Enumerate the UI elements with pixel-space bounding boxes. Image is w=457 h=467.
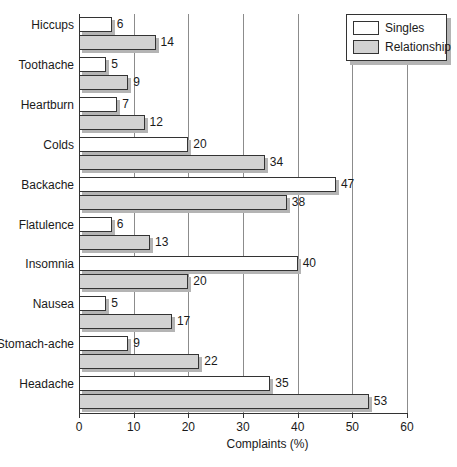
x-axis-title: Complaints (%) — [226, 437, 308, 451]
bar-relationship: 53 — [79, 394, 407, 409]
bar-singles: 47 — [79, 177, 407, 192]
bar-value-label: 53 — [374, 395, 387, 408]
category-label-stomach-ache: Stomach-ache — [0, 338, 74, 350]
bar-singles: 9 — [79, 336, 407, 351]
bar-rect — [79, 35, 156, 50]
bar-rect — [79, 314, 172, 329]
category-label-flatulence: Flatulence — [0, 219, 74, 231]
category-label-nausea: Nausea — [0, 298, 74, 310]
bar-relationship: 34 — [79, 155, 407, 170]
bar-rect — [79, 115, 145, 130]
bar-value-label: 9 — [133, 76, 140, 89]
gridline-60 — [407, 14, 408, 413]
y-axis-line — [79, 14, 80, 413]
bar-value-label: 9 — [133, 337, 140, 350]
bar-value-label: 14 — [161, 36, 174, 49]
bar-value-label: 12 — [150, 116, 163, 129]
bar-singles: 5 — [79, 296, 407, 311]
bar-value-label: 13 — [155, 236, 168, 249]
x-tick-label-0: 0 — [64, 420, 94, 434]
bar-value-label: 7 — [122, 98, 129, 111]
gridline-30 — [243, 14, 244, 413]
bar-value-label: 20 — [193, 275, 206, 288]
bar-rect — [79, 57, 106, 72]
x-tick-30 — [243, 413, 244, 418]
x-tick-label-40: 40 — [283, 420, 313, 434]
bar-chart: Singles Relationship 6145971220344738613… — [0, 0, 457, 467]
category-label-hiccups: Hiccups — [0, 19, 74, 31]
bar-value-label: 17 — [177, 315, 190, 328]
bar-rect — [79, 195, 287, 210]
category-label-backache: Backache — [0, 179, 74, 191]
bar-value-label: 22 — [204, 355, 217, 368]
x-tick-label-20: 20 — [173, 420, 203, 434]
x-axis-title-wrap: Complaints (%) — [0, 437, 457, 451]
category-label-headache: Headache — [0, 378, 74, 390]
bar-relationship: 20 — [79, 274, 407, 289]
gridline-20 — [188, 14, 189, 413]
bar-rect — [79, 354, 199, 369]
bar-value-label: 6 — [117, 18, 124, 31]
bar-relationship: 9 — [79, 75, 407, 90]
x-tick-label-50: 50 — [337, 420, 367, 434]
bar-rect — [79, 75, 128, 90]
bar-value-label: 6 — [117, 218, 124, 231]
bar-relationship: 22 — [79, 354, 407, 369]
x-tick-label-60: 60 — [392, 420, 422, 434]
category-label-heartburn: Heartburn — [0, 99, 74, 111]
legend-swatch-relationship — [353, 40, 379, 54]
bar-rect — [79, 97, 117, 112]
bar-value-label: 35 — [275, 377, 288, 390]
gridline-10 — [134, 14, 135, 413]
x-tick-10 — [134, 413, 135, 418]
bar-value-label: 38 — [292, 196, 305, 209]
bar-value-label: 20 — [193, 138, 206, 151]
bar-relationship: 13 — [79, 235, 407, 250]
category-label-insomnia: Insomnia — [0, 258, 74, 270]
bar-rect — [79, 274, 188, 289]
bar-rect — [79, 17, 112, 32]
bar-value-label: 40 — [303, 257, 316, 270]
bar-value-label: 5 — [111, 297, 118, 310]
bar-rect — [79, 256, 298, 271]
bar-singles: 40 — [79, 256, 407, 271]
plot-area: 614597122034473861340205179223553 — [79, 14, 407, 413]
bar-rect — [79, 394, 369, 409]
bar-singles: 35 — [79, 376, 407, 391]
gridline-40 — [298, 14, 299, 413]
bar-rect — [79, 177, 336, 192]
bar-rect — [79, 235, 150, 250]
bar-rect — [79, 296, 106, 311]
legend-label-relationship: Relationship — [385, 40, 451, 54]
bar-relationship: 12 — [79, 115, 407, 130]
x-tick-20 — [188, 413, 189, 418]
x-tick-label-10: 10 — [119, 420, 149, 434]
bar-value-label: 47 — [341, 178, 354, 191]
bar-rect — [79, 155, 265, 170]
x-tick-50 — [352, 413, 353, 418]
bar-rect — [79, 336, 128, 351]
bar-singles: 20 — [79, 137, 407, 152]
bar-relationship: 38 — [79, 195, 407, 210]
category-label-toothache: Toothache — [0, 59, 74, 71]
gridline-50 — [352, 14, 353, 413]
legend-label-singles: Singles — [385, 21, 424, 35]
bar-value-label: 34 — [270, 156, 283, 169]
x-tick-label-30: 30 — [228, 420, 258, 434]
bar-singles: 7 — [79, 97, 407, 112]
chart-legend: Singles Relationship — [346, 14, 447, 61]
bar-rect — [79, 137, 188, 152]
bar-rect — [79, 376, 270, 391]
bar-rect — [79, 217, 112, 232]
x-tick-40 — [298, 413, 299, 418]
bar-value-label: 5 — [111, 58, 118, 71]
legend-swatch-singles — [353, 21, 379, 35]
bar-singles: 6 — [79, 217, 407, 232]
bar-relationship: 17 — [79, 314, 407, 329]
category-label-colds: Colds — [0, 139, 74, 151]
x-tick-60 — [407, 413, 408, 418]
x-tick-0 — [79, 413, 80, 418]
